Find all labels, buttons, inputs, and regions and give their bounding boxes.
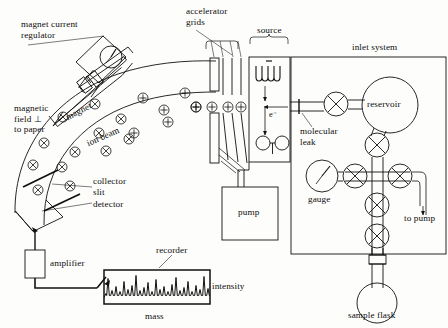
amplifier-label: amplifier [50,258,85,269]
ion-charge-marker [138,93,148,103]
accel-charge-marker [223,102,233,112]
repeller-left [256,136,270,150]
molecular-leak-leader [302,113,312,127]
accel-charge-marker [236,102,246,112]
detector-label: detector [93,199,123,210]
recorder-trace [104,276,210,298]
field-into-page-marker [124,134,134,144]
ion-charge-marker [163,117,173,127]
field-into-page-marker [28,160,38,170]
collector-slit-label: collector slit [93,176,126,197]
filament-coil [256,61,280,82]
recorder-label: recorder [156,245,187,256]
to-pump-label: to pump [404,213,435,224]
ion-charge-marker [129,128,139,138]
magnet-current-regulator-label: magnet current regulator [21,19,78,40]
ion-charge-marker [180,88,190,98]
field-into-page-marker [101,146,111,156]
gauge-valve [343,164,367,188]
gauge-label: gauge [308,194,330,205]
field-into-page-marker [65,181,75,191]
intensity-label: intensity [212,281,245,292]
pump-label: pump [238,207,259,218]
reservoir-valve [365,133,389,157]
source-bracket [250,34,288,44]
field-into-page-marker [39,138,49,148]
field-into-page-marker [70,147,80,157]
electron-label: e⁻ [269,110,277,120]
repeller-right [275,136,289,150]
mass-spectrometer-diagram: magnet current regulator magnetic field … [0,0,448,328]
amplifier-to-recorder-wire [35,278,97,288]
molecular-leak-pipe [290,99,320,114]
inlet-system-label: inlet system [352,42,397,53]
cross-valve [365,193,389,217]
sample-flask-label: sample flask [348,310,395,321]
leak-valve [324,92,348,116]
field-into-page-marker [57,162,67,172]
pump-valve [388,164,412,188]
mass-label: mass [145,311,164,322]
accel-charge-marker [191,102,201,112]
accelerator-grids-label: accelerator grids [186,6,227,27]
accel-charge-marker [207,102,217,112]
magnetic-field-label: magnetic field ⊥ to paper [14,103,48,135]
source-label: source [257,25,282,36]
amplifier-box [25,250,45,278]
field-into-page-marker [116,114,126,124]
grid-deflection-lines [219,148,245,173]
flask-valve [365,224,389,248]
reservoir-label: reservoir [367,99,401,110]
molecular-leak-label: molecular leak [300,126,338,147]
ion-charge-marker [159,105,169,115]
